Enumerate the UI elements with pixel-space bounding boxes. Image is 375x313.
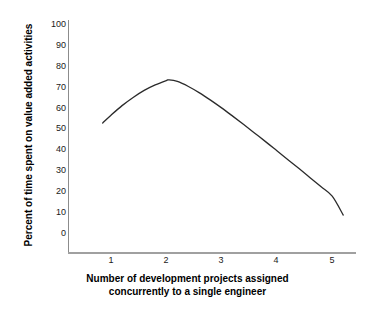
x-axis-title: Number of development projects assigned … <box>0 272 375 298</box>
x-tick-label: 3 <box>209 256 233 265</box>
x-tick-label: 1 <box>99 256 123 265</box>
x-axis-title-line1: Number of development projects assigned <box>0 272 375 285</box>
x-tick-label: 2 <box>154 256 178 265</box>
x-axis-tick-labels: 1 2 3 4 5 <box>0 256 375 272</box>
data-series-line <box>103 80 344 215</box>
x-axis-title-line2: concurrently to a single engineer <box>0 285 375 298</box>
chart-figure: Percent of time spent on value added act… <box>0 0 375 313</box>
x-tick-label: 4 <box>264 256 288 265</box>
x-tick-label: 5 <box>320 256 344 265</box>
